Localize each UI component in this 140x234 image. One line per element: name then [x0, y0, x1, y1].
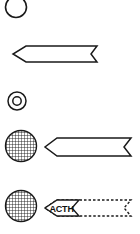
concentric-circle-symbol-inner: [13, 97, 21, 105]
solid-ribbon-arrow-short: [13, 46, 97, 62]
legend-row-3: [8, 92, 26, 110]
solid-ribbon-arrow-long: [45, 138, 131, 156]
legend-figure: ACTH: [0, 0, 140, 234]
legend-row-2: [13, 46, 97, 62]
diagram-root: ACTH Symbol legend ACTH: [0, 0, 140, 234]
open-circle-symbol: [6, 0, 27, 18]
hatched-circle-symbol: [6, 131, 37, 162]
hatched-circle-symbol: [6, 191, 37, 222]
acth-label: ACTH: [50, 204, 74, 214]
legend-row-1: [6, 0, 27, 18]
